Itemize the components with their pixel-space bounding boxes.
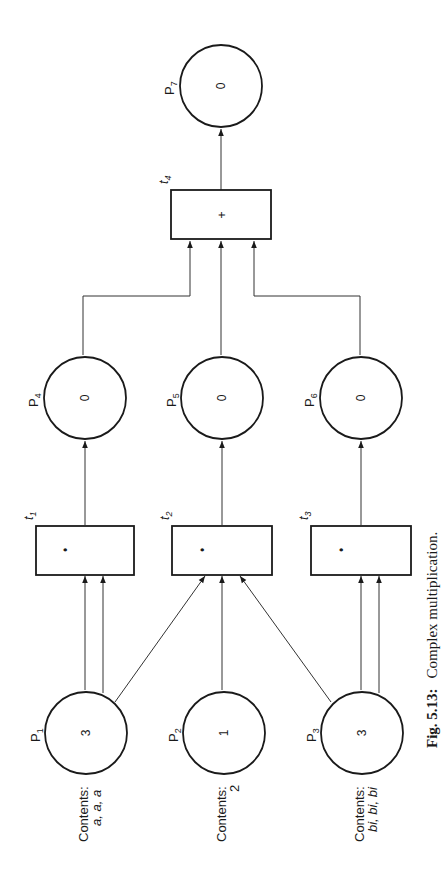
place-tokens: 1 [217, 729, 231, 736]
transition-label: t3 [296, 511, 313, 520]
place-label: P6 [302, 393, 319, 407]
transition-t3: • t3 [296, 511, 411, 575]
place-tokens: 3 [355, 729, 369, 736]
transition-box [36, 526, 134, 575]
place-label: P3 [304, 728, 321, 742]
transition-label: t2 [157, 511, 174, 520]
arc-p4-t4 [83, 241, 190, 355]
transition-t4: + t4 [156, 175, 271, 239]
place-tokens: 0 [78, 394, 92, 401]
transition-label: t1 [21, 511, 38, 520]
place-label: P1 [28, 728, 45, 742]
place-p7: 0 P7 [162, 45, 262, 127]
transition-t2: • t2 [157, 511, 272, 575]
place-p2: 1 P2 Contents: 2 [166, 692, 265, 842]
arc-p3-t2 [240, 576, 331, 702]
place-contents-value: a, a, a [89, 790, 104, 826]
place-label: P2 [166, 728, 183, 742]
place-tokens: 3 [79, 729, 93, 736]
place-contents-value: bi, bi, bi [365, 786, 380, 832]
petri-net-diagram: • t1 • t2 • t3 + t4 3 P1 Contents: a, a,… [0, 0, 447, 876]
transition-box [172, 526, 272, 575]
place-label: P5 [164, 393, 181, 407]
transition-op: + [215, 211, 229, 218]
transition-label: t4 [156, 175, 173, 184]
place-label: P4 [26, 393, 43, 407]
place-label: P7 [162, 81, 179, 95]
place-contents-value: 2 [227, 785, 242, 792]
place-p4: 0 P4 [26, 357, 126, 439]
place-tokens: 0 [354, 394, 368, 401]
place-tokens: 0 [215, 394, 229, 401]
place-tokens: 0 [214, 82, 228, 89]
place-p5: 0 P5 [164, 357, 263, 439]
transition-op: • [59, 548, 73, 552]
transition-op: • [196, 548, 210, 552]
place-p6: 0 P6 [302, 357, 402, 439]
place-p1: 3 P1 Contents: a, a, a [28, 692, 127, 842]
transition-op: • [335, 548, 349, 552]
transition-box [311, 526, 411, 575]
figure-caption: Fig. 5.13:Complex multiplication. [424, 532, 440, 748]
caption-text: Fig. 5.13:Complex multiplication. [424, 532, 440, 748]
arc-p6-t4 [254, 241, 360, 355]
place-contents-label: Contents: [214, 786, 229, 842]
transition-t1: • t1 [21, 511, 134, 575]
place-p3: 3 P3 Contents: bi, bi, bi [304, 692, 403, 842]
arc-p1-t2 [115, 576, 205, 702]
